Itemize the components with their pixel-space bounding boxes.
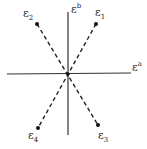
label-e4: ε4 (28, 130, 38, 144)
vertical-axis-label: εb (71, 3, 81, 15)
point-e2 (35, 22, 39, 26)
origin-point (66, 72, 70, 76)
label-e1: ε1 (95, 7, 105, 21)
horizontal-axis-label: εa (132, 61, 142, 73)
label-e2: ε2 (23, 8, 33, 22)
strain-diagram: εb εa ε1 ε2 ε3 ε4 (0, 0, 147, 149)
point-e3 (96, 123, 100, 127)
diagram-svg (0, 0, 147, 149)
point-e1 (94, 22, 98, 26)
dashed-line-e1-e4 (38, 24, 96, 128)
label-e3: ε3 (98, 130, 108, 144)
